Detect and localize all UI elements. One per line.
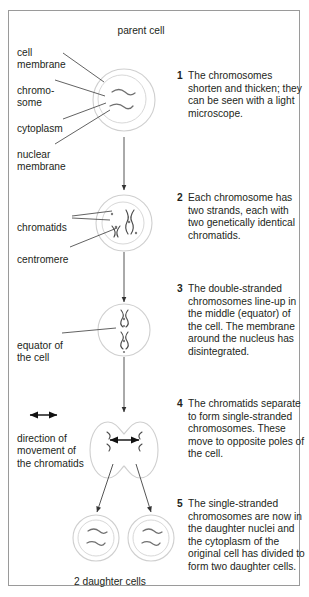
label-cytoplasm: cytoplasm (17, 123, 63, 135)
label-chromosome: chromo- some (17, 85, 54, 110)
step-3-number: 3 (177, 283, 188, 296)
step-3: 3 The double-stranded chromosomes line-u… (177, 283, 305, 359)
step-5-number: 5 (177, 498, 188, 511)
step-4-text: The chromatids separate to form single-s… (188, 398, 305, 461)
step-4: 4 The chromatids separate to form single… (177, 398, 305, 461)
label-cell-membrane: cell membrane (17, 47, 66, 72)
figure-title: parent cell (81, 25, 201, 37)
label-nuclear-membrane: nuclear membrane (17, 149, 66, 174)
step-2-text: Each chromosome has two strands, each wi… (188, 192, 305, 242)
step-5: 5 The single-stranded chromosomes are no… (177, 498, 305, 574)
step-1: 1 The chromosomes shorten and thicken; t… (177, 70, 305, 120)
label-chromatids: chromatids (17, 222, 67, 234)
figure-frame: parent cell cell membrane chromo- some c… (8, 10, 300, 586)
step-5-text: The single-stranded chromosomes are now … (188, 498, 305, 574)
step-2: 2 Each chromosome has two strands, each … (177, 192, 305, 242)
step-1-number: 1 (177, 70, 188, 83)
label-centromere: centromere (17, 254, 69, 266)
step-2-number: 2 (177, 192, 188, 205)
caption-daughter-cells: 2 daughter cells (55, 576, 165, 588)
step-3-text: The double-stranded chromosomes line-up … (188, 283, 305, 359)
label-direction-of-movement: direction of movement of the chromatids (17, 433, 84, 470)
step-1-text: The chromosomes shorten and thicken; the… (188, 70, 305, 120)
label-equator: equator of the cell (17, 340, 63, 365)
step-4-number: 4 (177, 398, 188, 411)
